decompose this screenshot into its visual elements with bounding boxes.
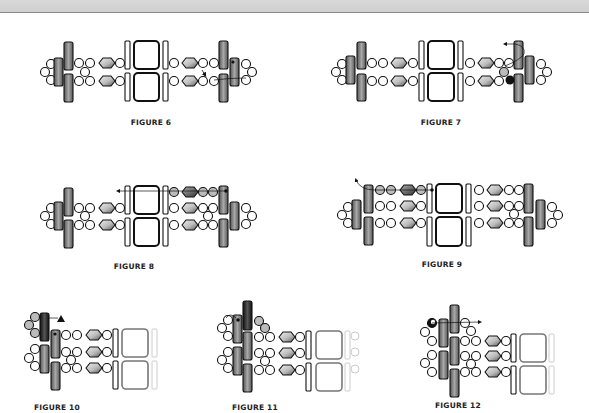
figure-12-caption: FIGURE 12 bbox=[435, 401, 481, 410]
figure-12-bead-diagram bbox=[0, 0, 589, 413]
